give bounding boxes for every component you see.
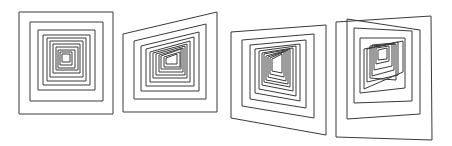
nested-quad [231,25,326,135]
nested-quad [378,48,387,60]
nested-quad [123,12,217,112]
nested-squares-figure [0,0,452,146]
panel-4 [336,16,432,140]
panel-3 [231,25,326,135]
nested-quad [19,12,113,114]
panel-1 [19,12,113,114]
nested-quad [53,44,80,73]
panel-2 [123,12,217,112]
nested-quad [153,44,187,78]
nested-quad [134,24,206,99]
nested-quad [159,48,183,72]
nested-quad [347,19,420,119]
nested-quad [62,54,70,62]
